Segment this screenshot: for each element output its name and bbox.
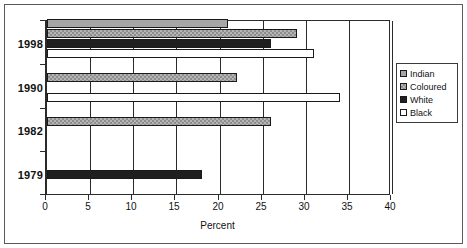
x-axis-tick bbox=[347, 195, 348, 200]
bar-coloured-1982 bbox=[47, 117, 271, 126]
x-tick-label-5: 5 bbox=[73, 201, 103, 212]
y-tick-label-1979: 1979 bbox=[3, 169, 43, 181]
y-axis-labels: 1998 1990 1982 1979 bbox=[0, 20, 43, 195]
bar-white-1998 bbox=[47, 39, 271, 48]
legend-swatch-white-icon bbox=[400, 96, 407, 103]
x-tick-label-15: 15 bbox=[159, 201, 189, 212]
x-axis-tick bbox=[390, 195, 391, 200]
bar-black-1998 bbox=[47, 49, 314, 58]
bar-row bbox=[47, 19, 389, 28]
bar-group-1979 bbox=[47, 152, 389, 196]
x-tick-label-40: 40 bbox=[375, 201, 405, 212]
bar-black-1990 bbox=[47, 93, 340, 102]
x-tick-label-25: 25 bbox=[246, 201, 276, 212]
bar-row bbox=[47, 73, 389, 82]
bar-groups bbox=[47, 21, 389, 194]
legend-label-indian: Indian bbox=[410, 69, 435, 79]
bar-white-1979 bbox=[47, 170, 202, 179]
bar-coloured-1990 bbox=[47, 73, 237, 82]
bar-row bbox=[47, 39, 389, 48]
bar-row bbox=[47, 93, 389, 102]
legend-item-black: Black bbox=[400, 106, 454, 119]
y-tick-label-1982: 1982 bbox=[3, 125, 43, 137]
x-tick-label-30: 30 bbox=[289, 201, 319, 212]
x-tick-label-35: 35 bbox=[332, 201, 362, 212]
legend-label-coloured: Coloured bbox=[410, 82, 447, 92]
bar-row bbox=[47, 29, 389, 38]
y-tick-label-1998: 1998 bbox=[3, 38, 43, 50]
legend-label-white: White bbox=[410, 95, 433, 105]
legend-item-indian: Indian bbox=[400, 67, 454, 80]
bar-group-1998 bbox=[47, 21, 389, 65]
chart-legend: Indian Coloured White Black bbox=[396, 63, 458, 123]
legend-label-black: Black bbox=[410, 108, 432, 118]
x-axis-tick bbox=[174, 195, 175, 200]
bar-coloured-1998 bbox=[47, 29, 297, 38]
x-tick-label-10: 10 bbox=[116, 201, 146, 212]
x-axis-tick bbox=[304, 195, 305, 200]
legend-item-coloured: Coloured bbox=[400, 80, 454, 93]
bar-row bbox=[47, 117, 389, 126]
x-tick-label-20: 20 bbox=[203, 201, 233, 212]
x-axis-tick bbox=[261, 195, 262, 200]
x-axis-tick bbox=[88, 195, 89, 200]
legend-swatch-indian-icon bbox=[400, 70, 407, 77]
y-tick-label-1990: 1990 bbox=[3, 82, 43, 94]
chart-figure: 1998 1990 1982 1979 0510152025303540 Per… bbox=[0, 0, 467, 248]
x-axis-tick bbox=[218, 195, 219, 200]
bar-row bbox=[47, 170, 389, 179]
bar-group-1990 bbox=[47, 65, 389, 109]
legend-item-white: White bbox=[400, 93, 454, 106]
bar-group-1982 bbox=[47, 109, 389, 153]
x-axis-title: Percent bbox=[45, 220, 390, 231]
x-tick-label-0: 0 bbox=[30, 201, 60, 212]
legend-swatch-black-icon bbox=[400, 109, 407, 116]
bar-row bbox=[47, 49, 389, 58]
x-axis-tick bbox=[45, 195, 46, 200]
bar-indian-1998 bbox=[47, 19, 228, 28]
plot-area bbox=[45, 20, 390, 195]
x-axis-tick-labels: 0510152025303540 bbox=[45, 201, 390, 215]
x-axis-tick bbox=[131, 195, 132, 200]
legend-swatch-coloured-icon bbox=[400, 83, 407, 90]
